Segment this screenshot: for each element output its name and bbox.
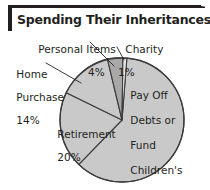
slice-label-payoff-line2: Debts or xyxy=(130,114,175,126)
slice-label-retirement-name: Retirement xyxy=(57,128,115,140)
slice-label-payoff-line4: Children's xyxy=(130,164,182,176)
slice-label-payoff-line1: Pay Off xyxy=(130,89,167,101)
slice-label-charity-name: Charity xyxy=(125,43,163,55)
slice-label-payoff: Pay Off Debts or Fund Children's Educati… xyxy=(117,76,183,190)
slice-label-home-purchase-percent: 14% xyxy=(16,114,39,126)
slice-label-home-purchase-line2: Purchase xyxy=(16,91,64,103)
slice-label-personal-items-name: Personal Items xyxy=(38,43,115,55)
slice-label-retirement: Retirement 20% xyxy=(44,117,116,175)
slice-label-payoff-line5: Education xyxy=(130,189,182,190)
slice-label-home-purchase-line1: Home xyxy=(16,68,47,80)
pie-chart-figure: Spending Their Inheritances xyxy=(0,0,210,190)
slice-label-payoff-line3: Fund xyxy=(130,139,155,151)
slice-label-retirement-percent: 20% xyxy=(57,151,80,163)
